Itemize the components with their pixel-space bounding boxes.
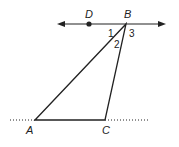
arrowhead-right-icon bbox=[158, 21, 166, 27]
arrowhead-left-icon bbox=[57, 21, 65, 27]
label-B: B bbox=[124, 8, 131, 20]
label-C: C bbox=[102, 124, 110, 136]
geometry-diagram: D B A C 1 2 3 bbox=[0, 0, 179, 147]
label-A: A bbox=[25, 124, 33, 136]
angle-3-label: 3 bbox=[129, 28, 135, 39]
line-through-B bbox=[57, 21, 166, 27]
angle-2-label: 2 bbox=[114, 39, 120, 50]
angle-1-label: 1 bbox=[108, 28, 114, 39]
point-D bbox=[86, 21, 91, 26]
label-D: D bbox=[85, 8, 93, 20]
